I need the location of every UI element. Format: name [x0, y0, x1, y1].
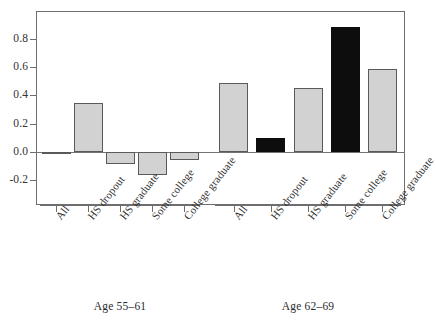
bar — [368, 69, 397, 152]
y-axis-tick-label: -0.2 — [0, 174, 28, 186]
y-axis-tick-label: 0.8 — [0, 33, 28, 45]
y-axis-tick — [30, 124, 37, 125]
y-axis-tick-label: 0.2 — [0, 118, 28, 130]
y-axis-tick-label: 0.4 — [0, 89, 28, 101]
y-axis-tick-label: 0.6 — [0, 61, 28, 73]
bar — [219, 83, 248, 152]
bar — [294, 88, 323, 152]
group-label: Age 62–69 — [248, 300, 368, 312]
y-axis-tick-label: 0.0 — [0, 146, 28, 158]
bar — [170, 152, 199, 160]
bar — [74, 103, 103, 152]
bar — [106, 152, 135, 164]
zero-baseline — [36, 152, 405, 153]
y-axis-tick — [30, 95, 37, 96]
y-axis-tick — [30, 180, 37, 181]
y-axis-tick — [30, 67, 37, 68]
bar — [42, 152, 71, 154]
bar — [331, 27, 360, 152]
group-label: Age 55–61 — [60, 300, 180, 312]
bar — [256, 138, 285, 152]
y-axis-tick — [30, 39, 37, 40]
